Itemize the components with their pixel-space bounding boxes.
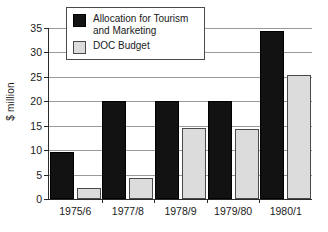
bar	[155, 101, 179, 199]
x-axis-label: 1980/1	[270, 205, 302, 217]
y-axis-label: 25	[30, 71, 42, 83]
legend-item-label: DOC Budget	[93, 40, 150, 52]
x-axis-label: 1979/80	[214, 205, 252, 217]
y-axis-label: 0	[36, 193, 42, 205]
x-axis-tick	[154, 199, 155, 203]
bar	[260, 31, 284, 199]
bar	[287, 75, 311, 199]
bar	[235, 129, 259, 199]
y-axis-tick	[44, 199, 49, 200]
bar	[208, 101, 232, 199]
legend-item: DOC Budget	[73, 40, 197, 54]
bar	[102, 101, 126, 199]
y-axis-tick	[44, 175, 49, 176]
bar	[77, 188, 101, 199]
bar	[50, 152, 74, 199]
y-axis-label: 10	[30, 144, 42, 156]
y-axis-label: 15	[30, 120, 42, 132]
y-axis-label: 5	[36, 169, 42, 181]
y-axis-label: 30	[30, 46, 42, 58]
y-axis-tick	[44, 101, 49, 102]
x-axis-label: 1975/6	[59, 205, 91, 217]
bar-chart: $ million 051015202530351975/61977/81978…	[0, 0, 328, 232]
y-axis-tick	[44, 150, 49, 151]
y-axis-tick	[44, 28, 49, 29]
x-axis-label: 1977/8	[112, 205, 144, 217]
y-axis-label: 20	[30, 95, 42, 107]
bar	[182, 128, 206, 199]
legend-swatch-icon	[73, 14, 86, 27]
legend: Allocation for Tourism and Marketing DOC…	[66, 7, 205, 60]
x-axis-tick	[207, 199, 208, 203]
legend-item-label: Allocation for Tourism and Marketing	[93, 13, 197, 36]
y-axis-tick	[44, 77, 49, 78]
x-axis-tick	[259, 199, 260, 203]
legend-item: Allocation for Tourism and Marketing	[73, 13, 197, 36]
bar	[129, 178, 153, 199]
y-axis-tick	[44, 126, 49, 127]
x-axis-label: 1978/9	[164, 205, 196, 217]
legend-swatch-icon	[73, 41, 86, 54]
y-axis-label: 35	[30, 22, 42, 34]
y-axis-title: $ million	[5, 62, 16, 142]
x-axis-tick	[102, 199, 103, 203]
y-axis-tick	[44, 52, 49, 53]
